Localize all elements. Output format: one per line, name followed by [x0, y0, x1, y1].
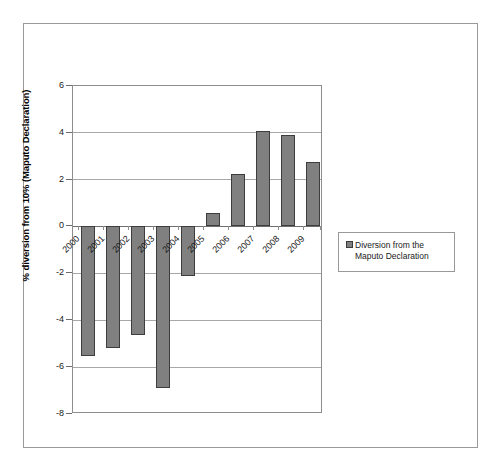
- bar-2009[interactable]: [306, 162, 320, 226]
- gridline-4: [73, 132, 321, 133]
- x-tick-mark: [228, 226, 229, 230]
- x-tick-mark: [253, 226, 254, 230]
- x-tick-mark: [153, 226, 154, 230]
- x-tick-mark: [103, 226, 104, 230]
- bar-2008[interactable]: [281, 135, 295, 226]
- y-tick-label: 0: [59, 220, 64, 230]
- y-tick-label: -8: [56, 408, 64, 418]
- y-tick-label: -2: [56, 267, 64, 277]
- bar-2006[interactable]: [231, 174, 245, 226]
- y-tick-label: 2: [59, 174, 64, 184]
- legend-entry[interactable]: Diversion from the Maputo Declaration: [346, 240, 450, 262]
- y-tick-label: -4: [56, 314, 64, 324]
- y-tick-label: 4: [59, 127, 64, 137]
- y-tick-label: 6: [59, 80, 64, 90]
- x-tick-mark: [278, 226, 279, 230]
- chart-legend[interactable]: Diversion from the Maputo Declaration: [338, 232, 455, 272]
- x-tick-mark: [128, 226, 129, 230]
- legend-swatch-icon: [346, 241, 353, 248]
- y-axis-title: % diversion from 10% (Maputo Declaration…: [20, 86, 31, 286]
- y-tick-label: -6: [56, 361, 64, 371]
- bar-chart: % diversion from 10% (Maputo Declaration…: [0, 0, 502, 459]
- bar-2005[interactable]: [206, 213, 220, 226]
- legend-entry-label: Diversion from the Maputo Declaration: [355, 240, 450, 262]
- x-tick-mark: [320, 226, 321, 230]
- x-tick-mark: [178, 226, 179, 230]
- bar-2007[interactable]: [256, 131, 270, 226]
- x-tick-mark: [78, 226, 79, 230]
- x-tick-mark: [203, 226, 204, 230]
- x-tick-mark: [303, 226, 304, 230]
- y-tick-mark: [66, 413, 72, 414]
- y-axis-tick-labels: 6 4 2 0 -2 -4 -6 -8: [40, 0, 64, 459]
- gridline-neg6: [73, 367, 321, 368]
